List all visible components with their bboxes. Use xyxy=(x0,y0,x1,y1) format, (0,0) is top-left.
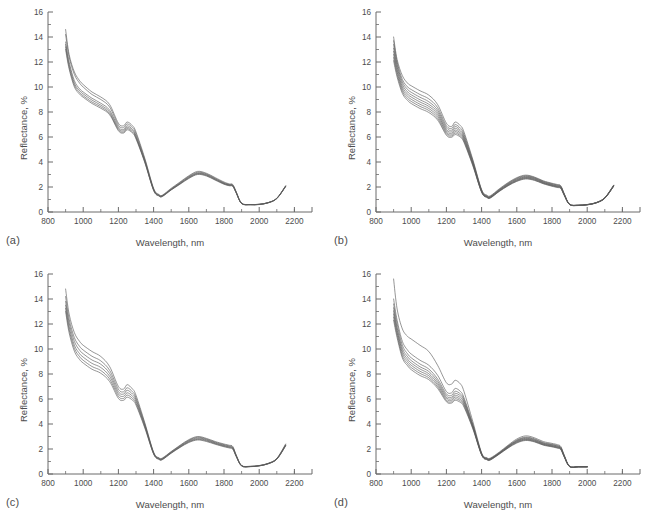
svg-text:14: 14 xyxy=(362,295,372,304)
svg-text:10: 10 xyxy=(34,83,44,92)
svg-text:10: 10 xyxy=(34,345,44,354)
panel-a-tag: (a) xyxy=(6,234,20,246)
svg-text:2200: 2200 xyxy=(613,217,632,226)
svg-text:14: 14 xyxy=(34,295,44,304)
panel-b-plot: 8001000120014001600180020002200024681012… xyxy=(328,0,656,262)
panel-d-ylabel: Reflectance, % xyxy=(346,358,357,422)
svg-text:1400: 1400 xyxy=(472,479,491,488)
svg-text:0: 0 xyxy=(366,208,371,217)
svg-text:14: 14 xyxy=(362,33,372,42)
svg-text:4: 4 xyxy=(38,158,43,167)
svg-text:1200: 1200 xyxy=(109,479,128,488)
svg-text:2000: 2000 xyxy=(578,479,597,488)
svg-text:12: 12 xyxy=(362,320,372,329)
svg-text:0: 0 xyxy=(38,208,43,217)
svg-text:1000: 1000 xyxy=(402,217,421,226)
svg-text:1800: 1800 xyxy=(215,217,234,226)
svg-text:16: 16 xyxy=(34,270,44,279)
svg-text:1400: 1400 xyxy=(144,217,163,226)
svg-text:1800: 1800 xyxy=(543,479,562,488)
panel-b: 8001000120014001600180020002200024681012… xyxy=(328,0,656,262)
panel-a-plot: 8001000120014001600180020002200024681012… xyxy=(0,0,328,262)
panel-b-xlabel: Wavelength, nm xyxy=(388,237,608,248)
svg-text:0: 0 xyxy=(38,470,43,479)
svg-text:1400: 1400 xyxy=(144,479,163,488)
panel-c-tag: (c) xyxy=(6,496,19,508)
panel-c-ylabel: Reflectance, % xyxy=(18,358,29,422)
svg-text:12: 12 xyxy=(34,320,44,329)
svg-text:4: 4 xyxy=(38,420,43,429)
svg-text:2200: 2200 xyxy=(285,479,304,488)
panel-a: 8001000120014001600180020002200024681012… xyxy=(0,0,328,262)
svg-text:2200: 2200 xyxy=(613,479,632,488)
svg-text:4: 4 xyxy=(366,420,371,429)
svg-text:8: 8 xyxy=(366,108,371,117)
panel-b-tag: (b) xyxy=(334,234,348,246)
svg-text:16: 16 xyxy=(34,8,44,17)
svg-text:1600: 1600 xyxy=(508,479,527,488)
panel-b-ylabel: Reflectance, % xyxy=(346,96,357,160)
svg-text:1600: 1600 xyxy=(180,217,199,226)
svg-text:2: 2 xyxy=(38,445,43,454)
svg-text:6: 6 xyxy=(366,133,371,142)
svg-text:2000: 2000 xyxy=(250,479,269,488)
svg-text:800: 800 xyxy=(41,479,55,488)
svg-text:1200: 1200 xyxy=(437,217,456,226)
panel-d: 8001000120014001600180020002200024681012… xyxy=(328,262,656,524)
svg-text:1600: 1600 xyxy=(180,479,199,488)
svg-text:6: 6 xyxy=(38,395,43,404)
svg-text:800: 800 xyxy=(369,479,383,488)
svg-text:2: 2 xyxy=(366,183,371,192)
svg-text:8: 8 xyxy=(38,108,43,117)
svg-text:1800: 1800 xyxy=(215,479,234,488)
svg-text:1800: 1800 xyxy=(543,217,562,226)
svg-text:1400: 1400 xyxy=(472,217,491,226)
svg-text:1000: 1000 xyxy=(74,217,93,226)
svg-text:2: 2 xyxy=(38,183,43,192)
svg-text:1200: 1200 xyxy=(437,479,456,488)
svg-text:12: 12 xyxy=(362,58,372,67)
svg-text:1600: 1600 xyxy=(508,217,527,226)
panel-d-tag: (d) xyxy=(334,496,348,508)
svg-text:14: 14 xyxy=(34,33,44,42)
svg-text:2: 2 xyxy=(366,445,371,454)
svg-text:6: 6 xyxy=(38,133,43,142)
svg-text:10: 10 xyxy=(362,83,372,92)
svg-text:16: 16 xyxy=(362,8,372,17)
svg-text:10: 10 xyxy=(362,345,372,354)
panel-d-plot: 8001000120014001600180020002200024681012… xyxy=(328,262,656,524)
svg-text:1200: 1200 xyxy=(109,217,128,226)
svg-text:2000: 2000 xyxy=(250,217,269,226)
panel-c-plot: 8001000120014001600180020002200024681012… xyxy=(0,262,328,524)
svg-text:6: 6 xyxy=(366,395,371,404)
svg-text:12: 12 xyxy=(34,58,44,67)
panel-a-ylabel: Reflectance, % xyxy=(18,96,29,160)
svg-text:2200: 2200 xyxy=(285,217,304,226)
svg-text:800: 800 xyxy=(41,217,55,226)
svg-text:4: 4 xyxy=(366,158,371,167)
svg-text:8: 8 xyxy=(38,370,43,379)
panel-c-xlabel: Wavelength, nm xyxy=(60,499,280,510)
panel-c: 8001000120014001600180020002200024681012… xyxy=(0,262,328,524)
svg-text:16: 16 xyxy=(362,270,372,279)
svg-text:2000: 2000 xyxy=(578,217,597,226)
svg-text:8: 8 xyxy=(366,370,371,379)
figure-four-panel-spectra: 8001000120014001600180020002200024681012… xyxy=(0,0,656,524)
svg-text:1000: 1000 xyxy=(74,479,93,488)
svg-text:1000: 1000 xyxy=(402,479,421,488)
panel-d-xlabel: Wavelength, nm xyxy=(388,499,608,510)
svg-text:0: 0 xyxy=(366,470,371,479)
panel-a-xlabel: Wavelength, nm xyxy=(60,237,280,248)
svg-text:800: 800 xyxy=(369,217,383,226)
